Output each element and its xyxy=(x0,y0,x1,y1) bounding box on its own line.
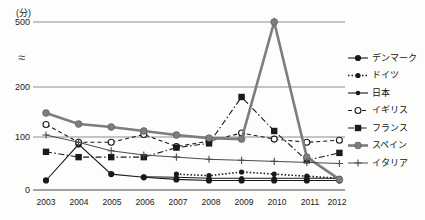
legend-label: デンマーク xyxy=(372,52,417,63)
series-layer xyxy=(42,19,343,184)
data-point xyxy=(271,128,277,134)
series-line xyxy=(176,172,339,178)
data-point xyxy=(336,176,343,183)
x-tick-2008: 2008 xyxy=(202,197,221,207)
series-line xyxy=(46,135,339,164)
legend-label: 日本 xyxy=(372,87,390,98)
legend-label: イタリア xyxy=(372,158,408,168)
legend-item-united-kingdom[interactable]: イギリス xyxy=(348,105,408,115)
data-point xyxy=(42,131,49,138)
x-tick-2011: 2011 xyxy=(301,197,320,207)
y-tick-100: 100 xyxy=(15,132,30,142)
legend-item-italy[interactable]: イタリア xyxy=(348,158,408,168)
x-tick-2004: 2004 xyxy=(70,197,89,207)
data-point xyxy=(272,176,277,181)
series-germany xyxy=(174,169,342,181)
series-line xyxy=(46,22,339,179)
data-point xyxy=(174,175,179,180)
data-point xyxy=(173,132,180,139)
legend-item-france[interactable]: フランス xyxy=(348,123,408,133)
x-tick-2003: 2003 xyxy=(37,197,56,207)
data-point xyxy=(43,149,49,155)
data-point xyxy=(271,158,278,165)
legend-marker-icon xyxy=(355,142,362,149)
data-point xyxy=(140,128,147,135)
data-point xyxy=(305,176,310,181)
gridlines xyxy=(33,22,345,190)
data-point xyxy=(206,135,213,142)
data-point xyxy=(272,172,277,177)
legend-marker-icon xyxy=(355,108,361,114)
data-point xyxy=(108,139,114,145)
chart-root: (分) 500 ≈ 200 100 0 2003 2004 2005 2006 … xyxy=(0,0,425,220)
legend-label: イギリス xyxy=(372,105,408,115)
y-axis-break-symbol: ≈ xyxy=(18,50,25,65)
y-axis-ticks: 500 ≈ 200 100 0 xyxy=(15,17,30,195)
legend-marker-icon xyxy=(355,55,361,61)
x-tick-2012: 2012 xyxy=(328,197,347,207)
data-point xyxy=(271,19,278,26)
y-tick-200: 200 xyxy=(15,82,30,92)
data-point xyxy=(43,122,49,128)
data-point xyxy=(43,110,50,117)
data-point xyxy=(336,160,343,167)
legend-item-germany[interactable]: ドイツ xyxy=(348,70,399,80)
legend-label: スペイン xyxy=(372,140,407,150)
line-chart: (分) 500 ≈ 200 100 0 2003 2004 2005 2006 … xyxy=(0,0,425,220)
data-point xyxy=(108,147,115,154)
data-point xyxy=(336,137,342,143)
data-point xyxy=(75,154,81,160)
legend-label: ドイツ xyxy=(372,70,399,80)
series-japan xyxy=(142,174,342,180)
data-point xyxy=(43,177,49,183)
data-point xyxy=(238,94,244,100)
legend-marker-icon xyxy=(356,91,361,96)
x-tick-2005: 2005 xyxy=(103,197,122,207)
x-axis-ticks: 2003 2004 2005 2006 2007 2008 2009 2010 … xyxy=(37,197,347,207)
legend-item-spain[interactable]: スペイン xyxy=(348,140,407,150)
data-point xyxy=(108,154,114,160)
chart-legend: デンマークドイツ日本イギリスフランススペインイタリア xyxy=(348,52,417,168)
legend-item-japan[interactable]: 日本 xyxy=(348,87,390,98)
legend-marker-icon xyxy=(355,73,360,78)
x-tick-2007: 2007 xyxy=(169,197,188,207)
data-point xyxy=(239,176,244,181)
data-point xyxy=(336,150,342,156)
data-point xyxy=(271,136,277,142)
y-tick-500: 500 xyxy=(15,17,30,27)
data-point xyxy=(239,169,244,174)
legend-marker-icon xyxy=(355,125,361,131)
data-point xyxy=(238,157,245,164)
x-tick-2009: 2009 xyxy=(235,197,254,207)
legend-item-denmark[interactable]: デンマーク xyxy=(348,52,417,63)
x-tick-2010: 2010 xyxy=(268,197,287,207)
data-point xyxy=(142,174,147,179)
x-tick-2006: 2006 xyxy=(136,197,155,207)
data-point xyxy=(205,156,212,163)
y-tick-0: 0 xyxy=(25,185,30,195)
data-point xyxy=(108,171,114,177)
data-point xyxy=(108,124,115,131)
data-point xyxy=(238,136,245,143)
data-point xyxy=(75,121,82,128)
legend-label: フランス xyxy=(372,123,408,133)
legend-marker-icon xyxy=(354,159,361,166)
data-point xyxy=(173,144,179,150)
data-point xyxy=(173,154,180,161)
data-point xyxy=(207,176,212,181)
